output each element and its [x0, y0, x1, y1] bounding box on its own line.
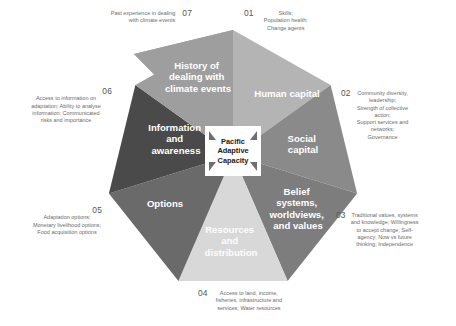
annotation-03-line-0: Traditional values, systems [352, 212, 418, 218]
annotation-05-line-1: Monetary livelihood options; [33, 222, 101, 228]
annotation-05-number: 05 [92, 207, 102, 214]
annotation-06-number: 06 [102, 88, 112, 95]
segment-label-07-line-1: dealing with [169, 71, 225, 82]
annotation-02-line-0: Community diversity, [357, 90, 408, 96]
annotation-05: 05 Adaptation options; Monetary liveliho… [8, 207, 126, 236]
annotation-07-description: Past experience in dealing with climate … [111, 10, 176, 25]
annotation-02-number: 02 [341, 90, 351, 97]
annotation-04-line-2: services; Water resources [217, 305, 280, 311]
segment-label-07-line-2: climate events [165, 83, 231, 94]
annotation-04-line-1: fisheries, infrastructure and [216, 297, 282, 303]
annotation-03-line-2: to accept change; Self- [357, 227, 413, 233]
annotation-02-line-5: networks; [371, 126, 395, 132]
annotation-01-number: 01 [244, 10, 254, 17]
annotation-04: 04 Access to land, income, fisheries, in… [160, 290, 320, 312]
segment-label-06-line-2: awareness [151, 145, 200, 156]
segment-label-05-line-0: Options [147, 198, 183, 209]
segment-label-03-line-1: systems, [276, 197, 317, 208]
segment-label-07: History of dealing with climate events [165, 60, 231, 94]
annotation-04-description: Access to land, income, fisheries, infra… [216, 290, 282, 312]
corner-triangle-top-left-icon [209, 131, 216, 140]
center-logo-line-1: Pacific [221, 137, 245, 146]
center-logo-line-2: Adaptive [217, 146, 248, 155]
segment-label-02-line-1: capital [288, 144, 318, 155]
annotation-01-description: Skills; Population health; Change agents [264, 10, 308, 32]
corner-triangle-bottom-right-icon [250, 162, 257, 171]
annotation-03-description: Traditional values, systems and knowledg… [351, 212, 419, 248]
segment-label-04-line-2: distribution [205, 247, 258, 258]
annotation-07-line-0: Past experience in dealing [111, 10, 176, 16]
annotation-01-line-2: Change agents [267, 25, 304, 31]
annotation-02-line-1: leadership; [369, 97, 396, 103]
annotation-01-line-0: Skills; [279, 10, 293, 16]
segment-label-03-line-3: and values [273, 220, 323, 231]
segment-label-03-line-2: worldviews, [268, 209, 324, 220]
segment-label-02: Social capital [288, 133, 319, 155]
annotation-02-line-4: Support services and [357, 119, 409, 125]
annotation-01-line-1: Population health; [264, 17, 308, 23]
annotation-07: Past experience in dealing with climate … [56, 10, 192, 25]
segment-label-02-line-0: Social [288, 133, 316, 144]
annotation-05-line-2: Food acquisition options [37, 229, 96, 235]
segment-label-03-line-0: Belief [284, 186, 311, 197]
annotation-04-line-0: Access to land, income, [220, 290, 278, 296]
annotation-02: 02 Community diversity, leadership; Stre… [341, 90, 453, 141]
center-logo-inner: Pacific Adaptive Capacity [209, 130, 257, 172]
center-logo-box: Pacific Adaptive Capacity [205, 126, 261, 176]
segment-label-07-line-0: History of [174, 60, 220, 71]
annotation-03-line-4: thinking; Independence [356, 241, 413, 247]
annotation-06-line-1: adaptation; Ability to analyse [31, 103, 101, 109]
annotation-06-line-3: risks and importance [41, 117, 92, 123]
corner-triangle-bottom-left-icon [209, 162, 216, 171]
annotation-03-line-3: agency; Now vs future [357, 234, 411, 240]
annotation-02-description: Community diversity, leadership; Strengt… [357, 90, 409, 141]
annotation-06-description: Access to information on adaptation; Abi… [4, 95, 128, 124]
annotation-02-line-6: Governance [368, 134, 398, 140]
annotation-03-line-1: and knowledge; Willingness [351, 219, 419, 225]
segment-label-01: Human capital [254, 88, 320, 99]
segment-label-05: Options [147, 198, 183, 209]
segment-label-06-line-0: Information [148, 122, 201, 133]
annotation-01: 01 Skills; Population health; Change age… [244, 10, 384, 32]
corner-triangle-top-right-icon [250, 131, 257, 140]
annotation-02-line-2: Strength of collective [357, 105, 408, 111]
segment-label-04-line-1: and [221, 235, 238, 246]
annotation-03-number: 03 [336, 212, 346, 219]
annotation-05-description: Adaptation options; Monetary livelihood … [8, 214, 126, 236]
annotation-07-number: 07 [182, 10, 192, 17]
annotation-06-line-2: information; Communicated [32, 110, 99, 116]
annotation-05-line-0: Adaptation options; [43, 214, 90, 220]
annotation-06-line-0: Access to information on [36, 95, 96, 101]
annotation-06: 06 Access to information on adaptation; … [4, 88, 128, 124]
annotation-03: 03 Traditional values, systems and knowl… [336, 212, 454, 248]
segment-label-01-line-0: Human capital [254, 88, 320, 99]
annotation-04-number: 04 [198, 290, 208, 297]
pacific-adaptive-capacity-diagram: Human capital Social capital Belief syst… [0, 0, 456, 326]
segment-label-06-line-1: and [166, 133, 183, 144]
annotation-02-line-3: action; [374, 112, 390, 118]
center-logo-line-3: Capacity [218, 156, 249, 165]
annotation-07-line-1: with climate events [129, 17, 175, 23]
segment-label-04-line-0: Resources [205, 224, 254, 235]
